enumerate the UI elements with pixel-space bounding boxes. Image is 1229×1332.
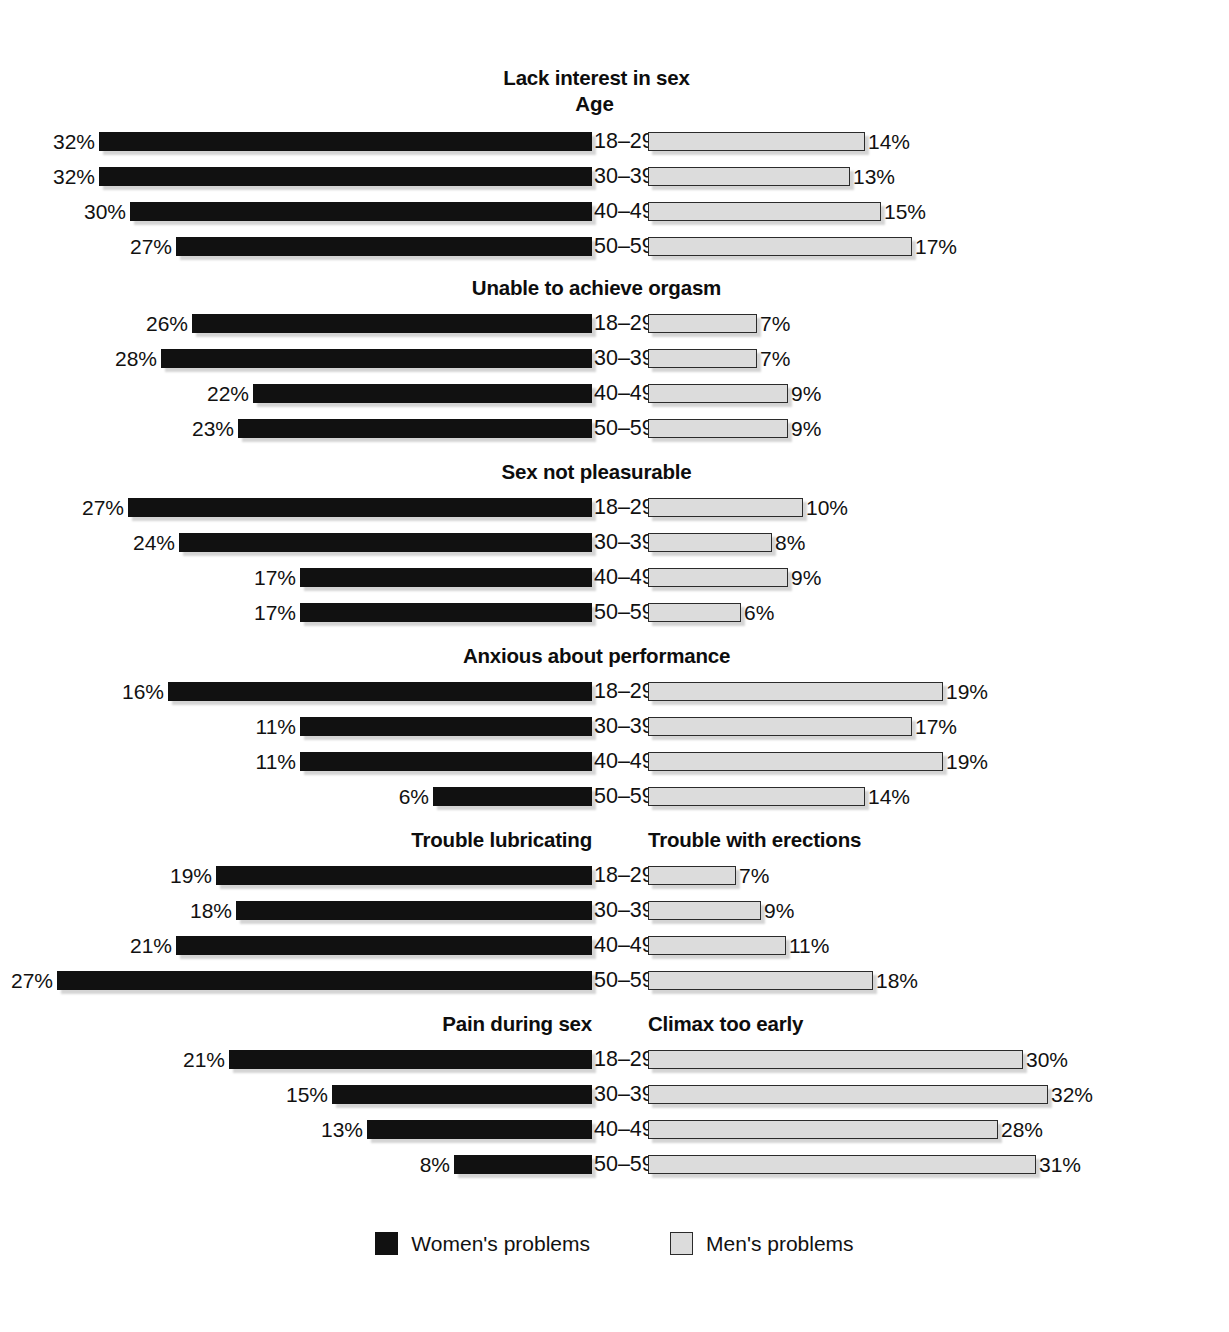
men-bar [648, 202, 881, 221]
men-bar-group: 32% [648, 1077, 1093, 1112]
men-bar [648, 533, 772, 552]
section-title: Anxious about performance [0, 644, 1211, 668]
men-bar [648, 498, 803, 517]
axis-label-age: Age [0, 92, 1209, 116]
chart-row: 13%40–4928% [0, 1112, 1229, 1147]
men-bar [648, 901, 761, 920]
chart-row: 28%30–397% [0, 341, 1229, 376]
women-value-label: 24% [133, 532, 175, 553]
men-bar-group: 18% [648, 963, 918, 998]
chart-section: Lack interest in sexAge32%18–2914%32%30–… [0, 62, 1229, 264]
chart-row: 22%40–499% [0, 376, 1229, 411]
women-bar-group: 18% [190, 893, 592, 928]
men-bar-group: 10% [648, 490, 848, 525]
women-bar [176, 936, 592, 955]
women-bar-group: 11% [256, 709, 592, 744]
women-value-label: 17% [254, 567, 296, 588]
women-value-label: 13% [321, 1119, 363, 1140]
section-title-right: Trouble with erections [648, 828, 861, 852]
women-value-label: 16% [122, 681, 164, 702]
women-value-label: 21% [183, 1049, 225, 1070]
chart-row: 27%50–5917% [0, 229, 1229, 264]
women-bar-group: 32% [53, 159, 592, 194]
men-bar-group: 17% [648, 709, 957, 744]
women-bar [161, 349, 592, 368]
women-bar [57, 971, 592, 990]
bidirectional-bar-chart: Lack interest in sexAge32%18–2914%32%30–… [0, 0, 1229, 1332]
women-bar-group: 8% [420, 1147, 592, 1182]
section-title-row: Unable to achieve orgasm [0, 272, 1229, 306]
women-value-label: 8% [420, 1154, 450, 1175]
women-value-label: 22% [207, 383, 249, 404]
women-value-label: 21% [130, 935, 172, 956]
section-title-row: Trouble lubricatingTrouble with erection… [0, 824, 1229, 858]
women-bar-group: 27% [130, 229, 592, 264]
women-bar [179, 533, 592, 552]
women-bar [300, 717, 592, 736]
section-title-right: Climax too early [648, 1012, 803, 1036]
chart-row: 21%40–4911% [0, 928, 1229, 963]
chart-section: Pain during sexClimax too early21%18–293… [0, 1008, 1229, 1182]
men-bar-group: 7% [648, 341, 790, 376]
men-bar-group: 6% [648, 595, 774, 630]
men-bar [648, 132, 865, 151]
men-bar-group: 17% [648, 229, 957, 264]
chart-row: 21%18–2930% [0, 1042, 1229, 1077]
men-bar [648, 568, 788, 587]
women-value-label: 6% [399, 786, 429, 807]
legend-label-women: Women's problems [411, 1233, 590, 1254]
women-bar-group: 15% [286, 1077, 592, 1112]
men-bar-group: 19% [648, 744, 988, 779]
women-bar [216, 866, 592, 885]
chart-row: 15%30–3932% [0, 1077, 1229, 1112]
section-title-left: Pain during sex [442, 1012, 592, 1036]
women-bar-group: 27% [11, 963, 592, 998]
section-title-left: Trouble lubricating [411, 828, 592, 852]
men-value-label: 9% [791, 418, 821, 439]
men-value-label: 15% [884, 201, 926, 222]
men-value-label: 7% [760, 348, 790, 369]
women-value-label: 15% [286, 1084, 328, 1105]
men-bar [648, 1050, 1023, 1069]
men-value-label: 19% [946, 751, 988, 772]
women-bar [168, 682, 592, 701]
legend-label-men: Men's problems [706, 1233, 854, 1254]
men-bar-group: 9% [648, 893, 794, 928]
women-bar [367, 1120, 592, 1139]
men-bar [648, 603, 741, 622]
women-bar [229, 1050, 592, 1069]
men-bar-group: 19% [648, 674, 988, 709]
chart-section: Anxious about performance16%18–2919%11%3… [0, 640, 1229, 814]
section-title-row: Sex not pleasurable [0, 456, 1229, 490]
men-bar-group: 11% [648, 928, 829, 963]
women-value-label: 32% [53, 166, 95, 187]
men-value-label: 13% [853, 166, 895, 187]
men-bar [648, 314, 757, 333]
section-rows: 32%18–2914%32%30–3913%30%40–4915%27%50–5… [0, 124, 1229, 264]
men-bar [648, 936, 786, 955]
women-bar-group: 19% [170, 858, 592, 893]
section-rows: 26%18–297%28%30–397%22%40–499%23%50–599% [0, 306, 1229, 446]
men-bar [648, 1155, 1036, 1174]
women-value-label: 26% [146, 313, 188, 334]
chart-row: 23%50–599% [0, 411, 1229, 446]
women-bar [433, 787, 592, 806]
men-bar [648, 682, 943, 701]
men-value-label: 9% [764, 900, 794, 921]
legend-item-women: Women's problems [375, 1232, 590, 1255]
men-bar-group: 30% [648, 1042, 1068, 1077]
women-value-label: 11% [256, 751, 296, 772]
chart-row: 18%30–399% [0, 893, 1229, 928]
chart-row: 8%50–5931% [0, 1147, 1229, 1182]
women-value-label: 19% [170, 865, 212, 886]
men-bar [648, 384, 788, 403]
women-bar [253, 384, 592, 403]
men-value-label: 9% [791, 567, 821, 588]
women-bar [130, 202, 592, 221]
legend-swatch-men-icon [670, 1232, 693, 1255]
chart-row: 11%40–4919% [0, 744, 1229, 779]
section-title: Lack interest in sex [0, 66, 1211, 90]
men-value-label: 11% [789, 935, 829, 956]
women-value-label: 27% [130, 236, 172, 257]
women-bar-group: 17% [254, 560, 592, 595]
